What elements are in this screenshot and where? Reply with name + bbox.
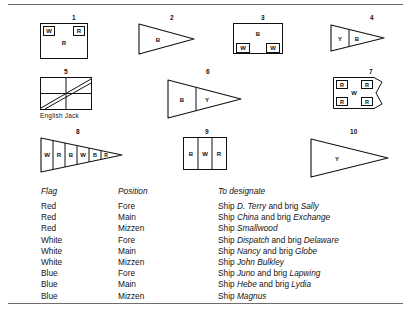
top-divider: [8, 4, 403, 5]
flag-number-label: 6: [206, 68, 210, 75]
svg-text:B: B: [256, 31, 261, 37]
flag-number-label: 4: [370, 14, 374, 21]
bottom-divider: [8, 303, 403, 304]
svg-text:B: B: [156, 37, 161, 43]
svg-text:R: R: [365, 82, 369, 88]
cell-flag: White: [41, 246, 118, 257]
svg-text:R: R: [365, 99, 369, 105]
svg-text:B: B: [180, 97, 185, 103]
table-row: Red Mizzen Ship Smallwood: [41, 223, 381, 234]
designate-brig-name: Exchange: [293, 212, 330, 222]
designate-ship-name: Smallwood: [237, 223, 278, 233]
flag-caption-english-jack: English Jack: [40, 112, 79, 120]
svg-text:R: R: [340, 82, 344, 88]
designate-ship-name: Hebe: [237, 279, 257, 289]
flag-graphic-7: R R R R W: [333, 77, 383, 109]
svg-text:B: B: [69, 152, 74, 158]
cell-position: Main: [118, 246, 218, 257]
svg-text:W: W: [202, 151, 208, 157]
column-header-flag: Flag: [41, 186, 118, 197]
cell-designate: Ship D. Terry and brig Sally: [218, 201, 381, 212]
column-header-designate: To designate: [218, 186, 381, 197]
cell-flag: White: [41, 257, 118, 268]
cell-designate: Ship Juno and brig Lapwing: [218, 268, 381, 279]
cell-designate: Ship Dispatch and brig Delaware: [218, 235, 381, 246]
designate-prefix: Ship: [218, 257, 237, 267]
cell-designate: Ship Magnus: [218, 291, 381, 302]
cell-position: Main: [118, 212, 218, 223]
table-row: Blue Main Ship Hebe and brig Lydia: [41, 279, 381, 290]
cell-designate: Ship John Bulkley: [218, 257, 381, 268]
flag-number-label: 5: [64, 68, 68, 75]
flag-graphic-4: Y B: [330, 23, 386, 53]
svg-text:Y: Y: [205, 97, 209, 103]
flag-number-label: 3: [261, 14, 265, 21]
cell-position: Mizzen: [118, 257, 218, 268]
designate-brig-name: Globe: [295, 246, 317, 256]
svg-text:Y: Y: [338, 36, 342, 42]
cell-flag: Red: [41, 212, 118, 223]
column-header-position: Position: [118, 186, 218, 197]
flag-number-label: 1: [72, 14, 76, 21]
designate-conjunction: and brig: [260, 246, 295, 256]
designate-prefix: Ship: [218, 268, 237, 278]
flag-graphic-3: B W W: [233, 23, 283, 54]
svg-text:R: R: [340, 99, 344, 105]
flag-graphic-2: B: [138, 23, 196, 55]
designate-ship-name: Dispatch: [237, 235, 269, 245]
cell-flag: Blue: [41, 268, 118, 279]
signal-assignment-table: Flag Position To designate Red Fore Ship…: [41, 186, 381, 302]
designate-conjunction: and brig: [266, 201, 301, 211]
svg-text:W: W: [46, 28, 52, 34]
svg-text:W: W: [351, 90, 357, 96]
cell-position: Mizzen: [118, 291, 218, 302]
cell-position: Fore: [118, 268, 218, 279]
svg-text:R: R: [57, 152, 62, 158]
flag-graphic-1: W R R: [40, 23, 88, 59]
flag-number-label: 8: [76, 128, 80, 135]
designate-brig-name: Sally: [301, 201, 319, 211]
designate-conjunction: and brig: [255, 268, 290, 278]
svg-text:R: R: [217, 151, 222, 157]
table-header-row: Flag Position To designate: [41, 186, 381, 201]
designate-prefix: Ship: [218, 235, 237, 245]
designate-brig-name: Lydia: [291, 279, 311, 289]
designate-ship-name: China: [237, 212, 259, 222]
svg-text:R: R: [62, 40, 67, 46]
designate-prefix: Ship: [218, 291, 237, 301]
cell-position: Main: [118, 279, 218, 290]
designate-conjunction: and brig: [259, 212, 294, 222]
designate-prefix: Ship: [218, 246, 237, 256]
designate-ship-name: John Bulkley: [237, 257, 284, 267]
flag-graphic-8: W R B W B R: [40, 137, 124, 173]
flag-number-label: 9: [205, 128, 209, 135]
designate-prefix: Ship: [218, 201, 237, 211]
flag-graphic-10: Y: [310, 138, 390, 178]
designate-conjunction: and brig: [269, 235, 304, 245]
svg-text:B: B: [355, 36, 360, 42]
table-row: Blue Mizzen Ship Magnus: [41, 291, 381, 302]
designate-brig-name: Lapwing: [290, 268, 321, 278]
svg-text:W: W: [80, 152, 86, 158]
svg-text:W: W: [270, 45, 276, 51]
cell-flag: Blue: [41, 279, 118, 290]
cell-position: Fore: [118, 235, 218, 246]
flag-illustration-grid: 1 W R R 2 B: [0, 10, 411, 180]
cell-designate: Ship Hebe and brig Lydia: [218, 279, 381, 290]
svg-text:R: R: [77, 28, 82, 34]
designate-brig-name: Delaware: [304, 235, 339, 245]
designate-conjunction: and brig: [257, 279, 292, 289]
svg-text:W: W: [44, 152, 50, 158]
designate-prefix: Ship: [218, 223, 237, 233]
cell-position: Fore: [118, 201, 218, 212]
designate-prefix: Ship: [218, 279, 237, 289]
flag-graphic-9: B W R: [183, 137, 227, 170]
designate-ship-name: D. Terry: [237, 201, 266, 211]
svg-text:R: R: [104, 152, 108, 158]
designate-ship-name: Magnus: [237, 291, 267, 301]
table-row: White Main Ship Nancy and brig Globe: [41, 246, 381, 257]
flag-chart-page: 1 W R R 2 B: [0, 0, 411, 320]
flag-number-label: 10: [350, 128, 357, 135]
cell-flag: Red: [41, 201, 118, 212]
table-row: Red Main Ship China and brig Exchange: [41, 212, 381, 223]
